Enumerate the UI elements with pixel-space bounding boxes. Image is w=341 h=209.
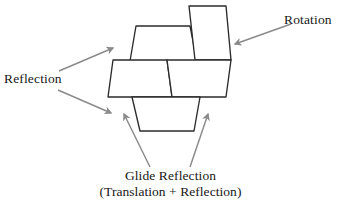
label-reflection: Reflection [4, 71, 62, 86]
shape-rotated-parallelogram [189, 6, 231, 60]
label-glide-reflection-line2: (Translation + Reflection) [0, 184, 341, 199]
shape-upper-trapezoid [130, 26, 197, 61]
label-rotation: Rotation [284, 12, 332, 27]
tile-shapes [108, 6, 231, 131]
reflection-lower-arrow [58, 90, 111, 113]
diagram-figure: Reflection Rotation Glide Reflection (Tr… [0, 0, 341, 209]
shape-lower-trapezoid [132, 97, 200, 131]
label-glide-reflection: Glide Reflection (Translation + Reflecti… [0, 168, 341, 199]
label-glide-reflection-line1: Glide Reflection [125, 168, 216, 183]
reflection-upper-arrow [59, 48, 113, 71]
rotation-arrow [235, 24, 291, 44]
shape-middle-left-parallelogram [108, 60, 172, 97]
shape-middle-right-parallelogram [167, 60, 231, 97]
